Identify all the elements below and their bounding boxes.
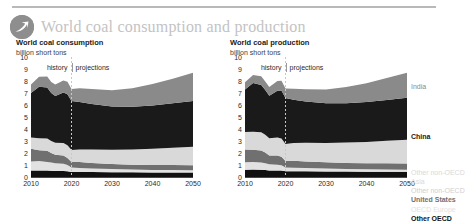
y-axis-tick: 4 — [238, 126, 242, 133]
history-label: history — [47, 64, 68, 71]
x-axis-line — [31, 177, 193, 178]
y-axis-tick: 6 — [24, 102, 28, 109]
projections-label: projections — [290, 64, 324, 71]
legend-item: OECD Europe — [411, 206, 456, 213]
y-axis-tick: 5 — [24, 114, 28, 121]
y-axis-production: 012345678910 — [230, 57, 243, 177]
y-axis-tick: 10 — [234, 54, 242, 61]
x-axis-tick: 2010 — [23, 180, 39, 187]
x-axis-line — [245, 177, 407, 178]
y-axis-tick: 10 — [20, 54, 28, 61]
y-axis-tick: 2 — [238, 150, 242, 157]
y-axis-consumption: 012345678910 — [16, 57, 29, 177]
x-axis-tick: 2010 — [237, 180, 253, 187]
panel-production: World coal production billion short tons… — [230, 38, 444, 199]
x-axis-tick: 2030 — [104, 180, 120, 187]
series-legend: IndiaChinaOther non-OECDAsiaOther non-OE… — [407, 57, 470, 183]
y-axis-tick: 7 — [24, 90, 28, 97]
panel-consumption: World coal consumption billion short ton… — [16, 38, 208, 199]
stacked-area-production — [245, 57, 407, 177]
x-axis-consumption: 20102020203020402050 — [31, 180, 193, 192]
legend-item: Other non-OECD — [411, 187, 465, 194]
x-axis-tick: 2040 — [145, 180, 161, 187]
y-axis-tick: 8 — [238, 78, 242, 85]
x-axis-tick: 2050 — [185, 180, 201, 187]
panel-subtitle: billion short tons — [230, 49, 444, 56]
y-axis-tick: 9 — [238, 66, 242, 73]
plot-production: 012345678910 20102020203020402050 IndiaC… — [230, 57, 444, 199]
x-axis-tick: 2030 — [318, 180, 334, 187]
y-axis-tick: 4 — [24, 126, 28, 133]
y-axis-tick: 9 — [24, 66, 28, 73]
x-axis-tick: 2020 — [278, 180, 294, 187]
plot-area-consumption — [31, 57, 193, 177]
y-axis-tick: 1 — [24, 162, 28, 169]
legend-item: Other non-OECD — [411, 169, 465, 176]
panel-title: World coal consumption — [16, 38, 208, 47]
legend-item: Asia — [411, 178, 425, 185]
x-axis-production: 20102020203020402050 — [245, 180, 407, 192]
panel-title: World coal production — [230, 38, 444, 47]
y-axis-tick: 6 — [238, 102, 242, 109]
annotation-separator — [72, 63, 73, 72]
y-axis-tick: 3 — [24, 138, 28, 145]
y-axis-tick: 8 — [24, 78, 28, 85]
legend-item: United States — [411, 196, 456, 203]
y-axis-tick: 3 — [238, 138, 242, 145]
annotation-separator — [286, 63, 287, 72]
history-label: history — [261, 64, 282, 71]
y-axis-tick: 7 — [238, 90, 242, 97]
x-axis-tick: 2020 — [64, 180, 80, 187]
page-title: World coal consumption and production — [41, 18, 306, 36]
x-axis-tick: 2040 — [359, 180, 375, 187]
stacked-area-consumption — [31, 57, 193, 177]
panel-subtitle: billion short tons — [16, 49, 208, 56]
header-divider — [12, 6, 436, 8]
y-axis-tick: 2 — [24, 150, 28, 157]
legend-item: India — [411, 83, 426, 90]
plot-consumption: 012345678910 20102020203020402050 histor… — [16, 57, 208, 199]
projections-label: projections — [76, 64, 110, 71]
eia-swoosh-logo-icon — [10, 15, 34, 39]
y-axis-tick: 5 — [238, 114, 242, 121]
y-axis-tick: 1 — [238, 162, 242, 169]
legend-item: Other OECD — [411, 215, 452, 222]
legend-item: China — [411, 133, 430, 140]
plot-area-production — [245, 57, 407, 177]
